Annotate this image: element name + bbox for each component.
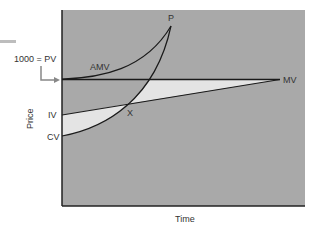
- pv-arrow: [41, 66, 56, 80]
- p-label: P: [168, 13, 174, 23]
- bond-price-diagram: 1000 = PV AMV P MV IV CV X Time Price: [0, 0, 320, 229]
- cv-label: CV: [47, 132, 60, 142]
- mv-label: MV: [283, 75, 297, 85]
- y-axis-label: Price: [25, 108, 35, 129]
- x-label: X: [127, 108, 133, 118]
- decorative-bar: [0, 40, 16, 43]
- arrow-head-icon: [54, 77, 60, 83]
- pv-label: 1000 = PV: [14, 54, 56, 64]
- amv-label: AMV: [90, 62, 110, 72]
- x-axis-label: Time: [175, 214, 195, 224]
- iv-label: IV: [48, 110, 57, 120]
- plot-area: [62, 10, 305, 206]
